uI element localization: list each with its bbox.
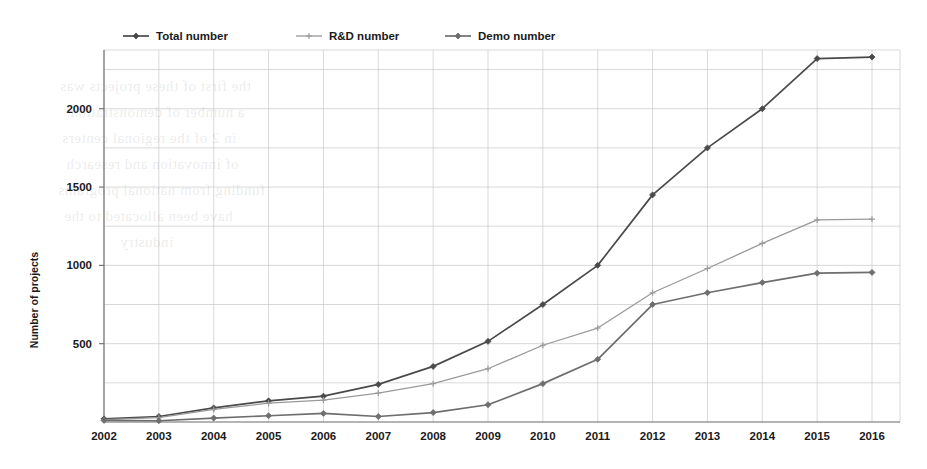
data-point-marker — [211, 415, 217, 421]
legend-label: Total number — [156, 30, 229, 42]
legend-label: Demo number — [478, 30, 556, 42]
data-point-marker — [320, 397, 326, 403]
data-point-marker — [540, 342, 546, 348]
data-point-marker — [375, 390, 381, 396]
legend-item-1[interactable]: Total number — [123, 30, 229, 42]
x-tick-label: 2015 — [804, 430, 830, 442]
data-point-marker — [759, 240, 765, 246]
y-tick-label: 500 — [73, 338, 92, 350]
data-point-marker — [306, 33, 312, 39]
x-tick-label: 2004 — [201, 430, 227, 442]
data-point-marker — [704, 290, 710, 296]
x-tick-label: 2010 — [530, 430, 556, 442]
chart-legend: Total numberR&D numberDemo number — [123, 30, 556, 42]
y-tick-labels: 500100015002000 — [66, 103, 104, 350]
x-tick-label: 2011 — [585, 430, 611, 442]
data-point-marker — [430, 381, 436, 387]
y-axis-title: Number of projects — [28, 252, 40, 348]
data-point-marker — [704, 266, 710, 272]
data-point-marker — [485, 402, 491, 408]
line-chart: 2002200320042005200620072008200920102011… — [0, 0, 927, 469]
data-point-marker — [375, 381, 381, 387]
y-tick-label: 1000 — [66, 259, 92, 271]
legend-label: R&D number — [329, 30, 400, 42]
x-tick-label: 2016 — [859, 430, 885, 442]
x-tick-label: 2003 — [146, 430, 172, 442]
data-point-marker — [430, 363, 436, 369]
chart-figure: the first of these projects was a number… — [0, 0, 927, 469]
x-tick-label: 2013 — [695, 430, 721, 442]
data-point-marker — [869, 54, 875, 60]
x-tick-labels: 2002200320042005200620072008200920102011… — [91, 430, 885, 442]
data-point-marker — [430, 410, 436, 416]
data-point-marker — [375, 414, 381, 420]
x-tick-label: 2012 — [640, 430, 666, 442]
y-tick-label: 2000 — [66, 103, 92, 115]
data-point-marker — [455, 33, 461, 39]
data-point-marker — [266, 413, 272, 419]
data-point-marker — [320, 410, 326, 416]
x-tick-label: 2007 — [365, 430, 391, 442]
x-tick-label: 2014 — [749, 430, 775, 442]
x-tick-label: 2009 — [475, 430, 501, 442]
data-point-marker — [814, 270, 820, 276]
legend-item-3[interactable]: Demo number — [445, 30, 556, 42]
x-tick-label: 2008 — [420, 430, 446, 442]
x-tick-label: 2002 — [91, 430, 117, 442]
data-point-marker — [814, 217, 820, 223]
data-point-marker — [133, 33, 139, 39]
data-point-marker — [869, 216, 875, 222]
data-point-marker — [759, 280, 765, 286]
legend-item-2[interactable]: R&D number — [296, 30, 400, 42]
data-point-marker — [156, 418, 162, 424]
data-point-marker — [540, 381, 546, 387]
data-point-marker — [869, 269, 875, 275]
data-point-marker — [485, 366, 491, 372]
x-tick-label: 2005 — [256, 430, 282, 442]
x-tick-label: 2006 — [311, 430, 337, 442]
y-tick-label: 1500 — [66, 181, 92, 193]
